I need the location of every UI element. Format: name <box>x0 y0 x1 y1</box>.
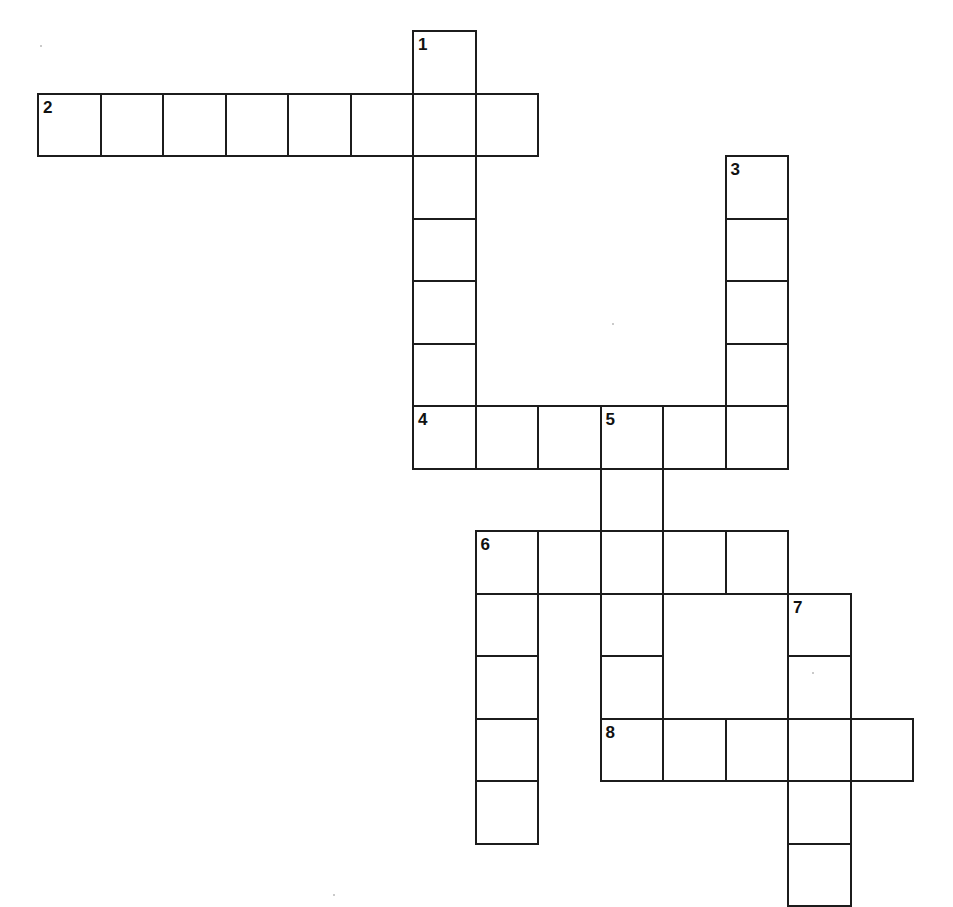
crossword-clue-number-4: 4 <box>418 411 427 428</box>
crossword-cell[interactable] <box>725 218 790 283</box>
scan-speck-3 <box>612 323 614 325</box>
crossword-clue-number-3: 3 <box>731 161 740 178</box>
crossword-clue-number-2: 2 <box>43 99 52 116</box>
crossword-cell[interactable] <box>662 530 727 595</box>
crossword-cell[interactable] <box>537 405 602 470</box>
crossword-cell[interactable] <box>412 280 477 345</box>
crossword-cell[interactable] <box>787 780 852 845</box>
crossword-cell[interactable] <box>725 718 790 783</box>
scan-speck-1 <box>40 45 42 47</box>
crossword-cell[interactable] <box>725 280 790 345</box>
crossword-cell[interactable] <box>600 468 665 533</box>
crossword-cell[interactable] <box>600 593 665 658</box>
crossword-cell[interactable] <box>225 93 290 158</box>
crossword-cell[interactable] <box>475 718 540 783</box>
crossword-cell[interactable] <box>412 218 477 283</box>
crossword-cell[interactable] <box>850 718 915 783</box>
crossword-cell[interactable] <box>600 530 665 595</box>
crossword-clue-number-1: 1 <box>418 36 427 53</box>
scan-speck-4 <box>812 672 814 674</box>
crossword-cell[interactable] <box>475 405 540 470</box>
crossword-cell[interactable] <box>412 93 477 158</box>
crossword-cell[interactable] <box>537 530 602 595</box>
crossword-cell[interactable] <box>725 405 790 470</box>
crossword-cell[interactable] <box>412 155 477 220</box>
crossword-cell[interactable] <box>725 530 790 595</box>
crossword-cell[interactable] <box>662 718 727 783</box>
crossword-cell[interactable] <box>600 655 665 720</box>
crossword-clue-number-7: 7 <box>793 599 802 616</box>
crossword-cell[interactable] <box>475 93 540 158</box>
crossword-cell[interactable] <box>412 343 477 408</box>
crossword-cell[interactable] <box>787 655 852 720</box>
crossword-cell[interactable] <box>162 93 227 158</box>
crossword-cell[interactable] <box>287 93 352 158</box>
crossword-clue-number-6: 6 <box>481 536 490 553</box>
crossword-cell[interactable] <box>725 343 790 408</box>
crossword-cell[interactable] <box>475 655 540 720</box>
crossword-cell[interactable] <box>787 843 852 907</box>
crossword-clue-number-8: 8 <box>606 724 615 741</box>
crossword-cell[interactable] <box>662 405 727 470</box>
crossword-cell[interactable] <box>350 93 415 158</box>
crossword-cell[interactable] <box>475 593 540 658</box>
crossword-clue-number-5: 5 <box>606 411 615 428</box>
scan-speck-2 <box>333 894 335 896</box>
crossword-cell[interactable] <box>787 718 852 783</box>
crossword-cell[interactable] <box>475 780 540 845</box>
crossword-cell[interactable] <box>100 93 165 158</box>
